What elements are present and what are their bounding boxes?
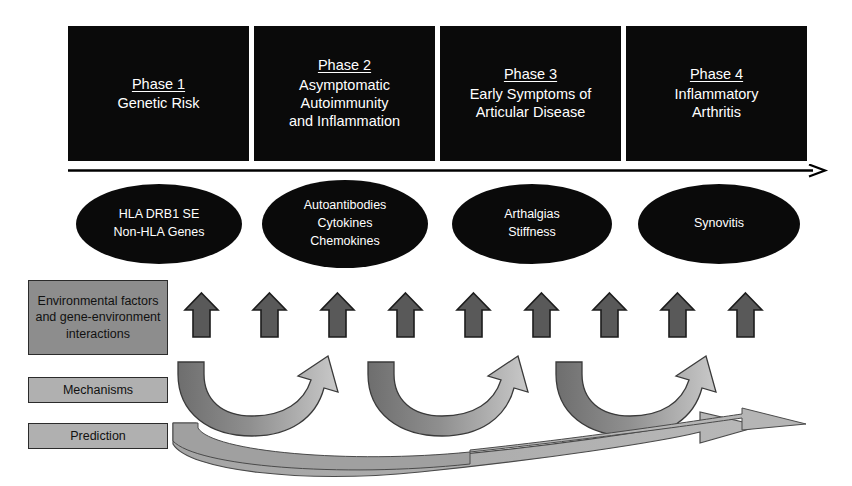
phase-box-1[interactable]: Phase 1 Genetic Risk <box>68 26 249 161</box>
mechanism-curved-arrows <box>178 356 716 436</box>
phase-subtitle-line: and Inflammation <box>289 112 400 130</box>
phase-subtitle-line: Early Symptoms of <box>470 85 592 103</box>
diagram-canvas: Phase 1 Genetic Risk Phase 2 Asymptomati… <box>0 0 852 486</box>
phase-box-4[interactable]: Phase 4 Inflammatory Arthritis <box>626 26 807 161</box>
node-line: Non-HLA Genes <box>113 224 204 242</box>
progression-timeline-arrow <box>68 164 830 178</box>
phase-subtitle-line: Articular Disease <box>476 103 586 121</box>
phase-title: Phase 1 <box>132 75 185 93</box>
side-label-text: Mechanisms <box>63 382 133 398</box>
phase-subtitle-line: Asymptomatic <box>299 76 390 94</box>
prediction-sweeping-arrow <box>173 408 806 476</box>
phase-subtitle-line: Autoimmunity <box>301 94 389 112</box>
phase-title: Phase 2 <box>318 56 371 74</box>
phase-title: Phase 4 <box>690 65 743 83</box>
node-line: Autoantibodies <box>304 197 387 215</box>
node-ellipse-synovitis[interactable]: Synovitis <box>638 184 800 264</box>
node-line: Cytokines <box>318 215 373 233</box>
node-line: HLA DRB1 SE <box>119 206 200 224</box>
side-label-text: Prediction <box>70 428 126 444</box>
node-ellipse-autoimmunity[interactable]: Autoantibodies Cytokines Chemokines <box>262 180 428 268</box>
phase-title: Phase 3 <box>504 65 557 83</box>
node-line: Synovitis <box>694 215 744 233</box>
phase-box-2[interactable]: Phase 2 Asymptomatic Autoimmunity and In… <box>254 26 435 161</box>
node-line: Stiffness <box>508 224 556 242</box>
contributing-factor-arrows <box>185 293 762 337</box>
node-line: Chemokines <box>310 233 379 251</box>
side-label-text: Environmental factors and gene-environme… <box>33 293 163 342</box>
side-label-mechanisms[interactable]: Mechanisms <box>28 377 168 403</box>
node-ellipse-genetic[interactable]: HLA DRB1 SE Non-HLA Genes <box>76 184 242 264</box>
phase-box-3[interactable]: Phase 3 Early Symptoms of Articular Dise… <box>440 26 621 161</box>
phase-subtitle-line: Arthritis <box>692 103 741 121</box>
node-ellipse-symptoms[interactable]: Arthalgias Stiffness <box>452 184 612 264</box>
node-line: Arthalgias <box>504 206 560 224</box>
side-label-environmental[interactable]: Environmental factors and gene-environme… <box>28 280 168 355</box>
phase-subtitle-line: Inflammatory <box>675 85 759 103</box>
phase-subtitle-line: Genetic Risk <box>117 94 199 112</box>
side-label-prediction[interactable]: Prediction <box>28 423 168 449</box>
